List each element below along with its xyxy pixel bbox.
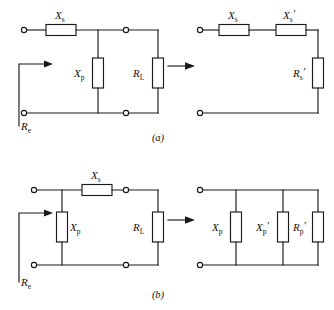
terminal-a-left-top: [21, 27, 26, 32]
caption-b: (b): [152, 289, 165, 301]
component-a-left-xs: [46, 25, 76, 36]
component-a-right-xs-prime: [276, 25, 306, 36]
label-b-rl: RL: [132, 221, 145, 236]
terminal-a-right-top: [197, 27, 202, 32]
component-b-right-xp: [231, 212, 242, 242]
figure-canvas: Xs Xp RL Re Xs Xs′ Rs′ (a) Xs Xp RL Re X…: [0, 0, 334, 310]
component-a-right-rs-prime: [313, 58, 324, 88]
component-a-left-xp: [93, 58, 104, 88]
terminal-b-left-top: [31, 187, 36, 192]
label-b-xp: Xp: [69, 221, 81, 236]
arrow-a-head: [185, 62, 195, 70]
label-a-right-xs: Xs: [227, 9, 238, 24]
terminal-b-left-mid-top: [123, 187, 128, 192]
caption-a: (a): [152, 132, 165, 144]
label-b-right-xp: Xp: [211, 221, 223, 236]
indicator-a-re-arrow-line: [19, 64, 44, 126]
label-b-xs: Xs: [90, 169, 101, 184]
indicator-a-re-arrowhead: [44, 60, 53, 67]
component-a-right-xs: [219, 25, 249, 36]
panel-a-transition-arrow: [168, 62, 195, 70]
label-a-rl: RL: [132, 67, 145, 82]
component-b-right-rp-prime: [313, 212, 324, 242]
indicator-b-re-arrow-line: [19, 213, 44, 282]
terminal-b-left-mid-bottom: [123, 262, 128, 267]
label-a-right-rs-prime: Rs′: [292, 65, 306, 82]
terminal-a-left-mid-bottom: [123, 110, 128, 115]
indicator-b-re-arrowhead: [44, 209, 53, 216]
label-b-right-rp-prime: Rp′: [292, 219, 306, 236]
component-b-left-rl: [153, 212, 164, 242]
label-a-right-xs-prime: Xs′: [282, 7, 296, 24]
label-b-right-xp-prime: Xp′: [255, 219, 269, 236]
terminal-a-left-mid-top: [123, 27, 128, 32]
label-a-xs: Xs: [54, 9, 65, 24]
component-a-left-rl: [153, 58, 164, 88]
terminal-a-right-bottom: [197, 110, 202, 115]
circuit-diagram-svg: Xs Xp RL Re Xs Xs′ Rs′ (a) Xs Xp RL Re X…: [0, 0, 334, 310]
terminal-a-left-bottom: [21, 110, 26, 115]
label-a-re: Re: [20, 120, 32, 135]
arrow-b-head: [185, 216, 195, 224]
label-b-re: Re: [20, 276, 32, 291]
terminal-b-right-top: [197, 187, 202, 192]
component-b-right-xp-prime: [278, 212, 289, 242]
terminal-b-right-bottom: [197, 262, 202, 267]
component-b-left-xp: [57, 212, 68, 242]
label-a-xp: Xp: [73, 67, 85, 82]
panel-b-transition-arrow: [168, 216, 195, 224]
terminal-b-left-bottom: [31, 262, 36, 267]
component-b-left-xs: [82, 185, 112, 196]
